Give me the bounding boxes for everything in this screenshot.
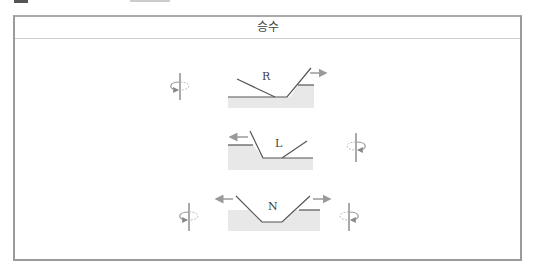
hand-diagrams: R L N — [0, 0, 538, 276]
figure-r: R — [171, 68, 326, 108]
figure-l: L — [228, 131, 365, 170]
figure-label-l: L — [275, 137, 283, 150]
rotation-icon-left — [180, 203, 198, 231]
figure-n: N — [180, 196, 359, 231]
figure-label-n: N — [268, 200, 278, 213]
rotation-icon-right — [340, 203, 358, 231]
rotation-icon-right — [347, 133, 365, 162]
figure-label-r: R — [262, 70, 271, 83]
rotation-icon-left — [171, 73, 189, 100]
